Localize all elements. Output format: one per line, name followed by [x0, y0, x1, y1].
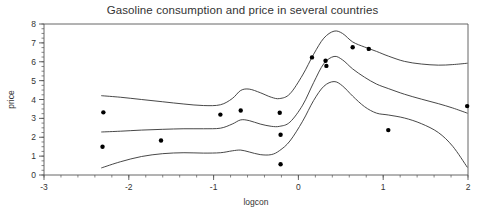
chart-figure: Gasoline consumption and price in severa… [0, 0, 485, 208]
y-axis-ticks [39, 24, 44, 175]
y-tick-label: 7 [31, 38, 36, 48]
x-tick-label: 2 [466, 182, 471, 192]
y-tick-label: 8 [31, 19, 36, 29]
data-point [310, 55, 314, 59]
axes-frame [44, 24, 468, 175]
x-tick-label: 0 [296, 182, 301, 192]
curve-upper-band [102, 31, 467, 106]
x-tick-label: -3 [40, 182, 48, 192]
data-point [323, 59, 327, 63]
data-point [465, 104, 469, 108]
x-axis-ticks [44, 175, 468, 180]
y-tick-label: 4 [31, 95, 36, 105]
data-point [278, 133, 282, 137]
y-tick-label: 0 [31, 170, 36, 180]
data-point [239, 108, 243, 112]
data-point [278, 162, 282, 166]
y-tick-label: 6 [31, 57, 36, 67]
data-point [386, 128, 390, 132]
y-axis-title: price [6, 90, 16, 109]
curve-lower-band [102, 82, 467, 168]
data-point [159, 138, 163, 142]
x-tick-label: -1 [210, 182, 218, 192]
fitted-curves [102, 31, 467, 168]
data-point [218, 112, 222, 116]
x-tick-label: 1 [381, 182, 386, 192]
x-axis-title: logcon [243, 197, 268, 207]
plot-area: -3-2-1012012345678logconprice [0, 0, 485, 208]
data-point [278, 111, 282, 115]
data-point [324, 64, 328, 68]
y-tick-label: 3 [31, 113, 36, 123]
y-tick-label: 2 [31, 132, 36, 142]
x-tick-label: -2 [125, 182, 133, 192]
data-point [350, 45, 354, 49]
y-tick-label: 5 [31, 76, 36, 86]
data-point [101, 110, 105, 114]
axis-labels: -3-2-1012012345678logconprice [6, 19, 471, 207]
data-point [100, 144, 104, 148]
y-tick-label: 1 [31, 151, 36, 161]
data-point [367, 47, 371, 51]
